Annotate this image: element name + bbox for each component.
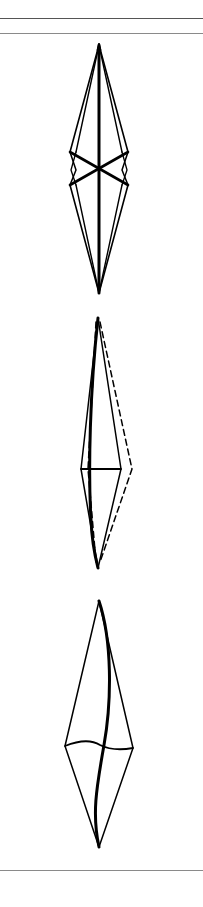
panel-1-outer-left-lower (70, 185, 99, 293)
panel-1-outer-right-lower (99, 185, 128, 293)
panel-1-apex-tip (97, 43, 101, 50)
panel-1-outer-left-upper (70, 45, 99, 152)
panel-1-outer-right-upper (99, 45, 128, 152)
panel-2-solid-right-outline (98, 318, 121, 568)
panel-1-inner-left-upper (76, 45, 99, 152)
panel-1-inner-right-lower (99, 185, 122, 293)
panel-2-kite-dashed (81, 318, 132, 568)
panel-1-kite-crossed (70, 43, 128, 293)
panel-1-inner-right-upper (99, 45, 122, 152)
panel-3-wavy-cross-line (65, 741, 133, 749)
panel-2-central-axis (90, 318, 98, 568)
diagram-canvas (0, 0, 203, 907)
panel-3-s-curve-axis (95, 601, 109, 847)
panel-1-inner-left-lower (76, 185, 99, 293)
panel-3-outline (65, 601, 133, 847)
panel-3-kite-curved (65, 601, 133, 847)
